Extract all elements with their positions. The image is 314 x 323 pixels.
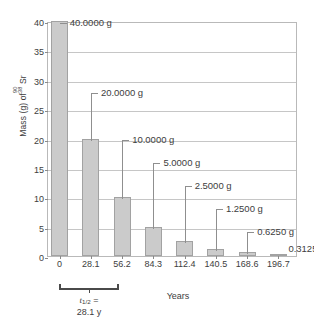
halflife-equals: = (91, 295, 99, 305)
bar (114, 197, 131, 256)
y-tick-mark (45, 82, 48, 83)
y-tick-label: 30 (4, 77, 44, 86)
bar (51, 21, 68, 256)
x-tick-label: 56.2 (113, 260, 131, 269)
bar-value-label: 10.0000 g (132, 135, 174, 145)
y-tick-mark (45, 141, 48, 142)
y-tick-label: 15 (4, 165, 44, 174)
y-tick-mark (45, 52, 48, 53)
x-tick-label: 112.4 (174, 260, 196, 269)
bar (82, 139, 99, 257)
gridline (48, 82, 296, 83)
leader-line-vertical (216, 209, 217, 251)
leader-line-vertical (153, 163, 154, 229)
x-tick-label: 28.1 (82, 260, 100, 269)
bar-value-label: 40.0000 g (70, 18, 112, 28)
bracket-stem (89, 289, 90, 293)
leader-line-horizontal (216, 209, 223, 210)
decay-bar-chart: Mass (g) of9038Sr 0510152025303540028.15… (0, 0, 314, 323)
leader-line-horizontal (91, 93, 98, 94)
y-tick-label: 5 (4, 224, 44, 233)
x-tick-label: 0 (57, 260, 62, 269)
leader-line-vertical (185, 186, 186, 243)
bar-value-label: 0.3125 g (288, 244, 314, 254)
y-tick-label: 10 (4, 195, 44, 204)
leader-line-horizontal (122, 140, 129, 141)
gridline (48, 111, 296, 112)
plot-area: 0510152025303540028.156.284.3112.4140.51… (47, 22, 297, 257)
x-tick-label: 84.3 (145, 260, 163, 269)
leader-line-vertical (247, 232, 248, 254)
x-axis-title-text: Years (167, 291, 190, 301)
bar-value-label: 0.6250 g (257, 227, 294, 237)
halflife-text: t1/2 = 28.1 y (55, 295, 123, 318)
y-tick-mark (45, 229, 48, 230)
y-tick-mark (45, 199, 48, 200)
x-tick-label: 196.7 (267, 260, 290, 269)
y-tick-mark (45, 170, 48, 171)
bar-value-label: 1.2500 g (226, 204, 263, 214)
bar (176, 241, 193, 256)
y-tick-label: 25 (4, 107, 44, 116)
y-tick-label: 35 (4, 48, 44, 57)
leader-line-horizontal (185, 186, 192, 187)
leader-line-horizontal (60, 23, 67, 24)
bar-value-label: 2.5000 g (195, 181, 232, 191)
leader-line-horizontal (153, 163, 160, 164)
y-tick-label: 40 (4, 19, 44, 28)
atomic-number: 38 (18, 87, 24, 93)
leader-line-vertical (122, 140, 123, 199)
halflife-annotation: t1/2 = 28.1 y (55, 284, 123, 318)
bar-value-label: 20.0000 g (101, 88, 143, 98)
leader-line-vertical (91, 93, 92, 141)
y-tick-label: 20 (4, 136, 44, 145)
bracket-right-tip (117, 284, 119, 290)
leader-line-horizontal (247, 232, 254, 233)
y-tick-mark (45, 23, 48, 24)
gridline (48, 52, 296, 53)
halflife-bracket (55, 284, 123, 292)
halflife-subscript: 1/2 (82, 298, 91, 305)
y-tick-label: 0 (4, 254, 44, 263)
bar-value-label: 5.0000 g (163, 158, 200, 168)
x-tick-label: 140.5 (205, 260, 228, 269)
halflife-value: 28.1 y (77, 307, 102, 317)
y-tick-mark (45, 258, 48, 259)
bar (145, 227, 162, 256)
x-axis-title: Years (0, 291, 314, 301)
y-tick-mark (45, 111, 48, 112)
x-tick-label: 168.6 (236, 260, 259, 269)
